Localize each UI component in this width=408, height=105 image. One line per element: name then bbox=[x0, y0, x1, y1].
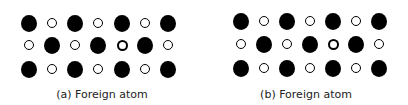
large-atom bbox=[371, 60, 387, 77]
small-atom bbox=[351, 16, 361, 26]
large-atom bbox=[371, 13, 387, 30]
caption-b: (b) Foreign atom bbox=[204, 88, 408, 101]
large-atom bbox=[21, 61, 37, 78]
large-atom bbox=[279, 13, 295, 30]
large-atom bbox=[233, 13, 249, 30]
small-atom bbox=[163, 40, 173, 50]
small-atom bbox=[70, 40, 80, 50]
large-atom bbox=[67, 15, 83, 32]
caption-a: (a) Foreign atom bbox=[0, 88, 204, 101]
large-atom bbox=[302, 36, 318, 53]
large-atom bbox=[21, 15, 37, 32]
large-atom bbox=[67, 61, 83, 78]
large-atom bbox=[325, 13, 341, 30]
small-atom bbox=[305, 16, 315, 26]
small-atom bbox=[47, 64, 57, 74]
large-atom bbox=[114, 15, 130, 32]
large-atom bbox=[137, 37, 153, 54]
large-atom bbox=[233, 60, 249, 77]
foreign-atom bbox=[117, 40, 128, 51]
small-atom bbox=[282, 39, 292, 49]
small-atom bbox=[93, 18, 103, 28]
foreign-atom bbox=[328, 39, 339, 50]
small-atom bbox=[305, 63, 315, 73]
panel-a: (a) Foreign atom bbox=[0, 0, 204, 105]
small-atom bbox=[374, 39, 384, 49]
large-atom bbox=[279, 60, 295, 77]
small-atom bbox=[259, 63, 269, 73]
large-atom bbox=[44, 37, 60, 54]
small-atom bbox=[140, 18, 150, 28]
large-atom bbox=[256, 36, 272, 53]
small-atom bbox=[140, 64, 150, 74]
small-atom bbox=[24, 40, 34, 50]
small-atom bbox=[351, 63, 361, 73]
small-atom bbox=[236, 39, 246, 49]
small-atom bbox=[47, 18, 57, 28]
small-atom bbox=[259, 16, 269, 26]
panel-b: (b) Foreign atom bbox=[204, 0, 408, 105]
large-atom bbox=[160, 15, 176, 32]
small-atom bbox=[93, 64, 103, 74]
large-atom bbox=[325, 60, 341, 77]
large-atom bbox=[114, 61, 130, 78]
large-atom bbox=[348, 36, 364, 53]
large-atom bbox=[90, 37, 106, 54]
large-atom bbox=[160, 61, 176, 78]
